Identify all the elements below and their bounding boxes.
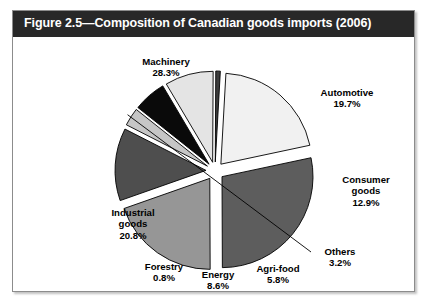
pie-slice-machinery[interactable] (222, 158, 313, 268)
pie-label-value: 0.8% (132, 272, 196, 283)
figure-title-bar: Figure 2.5—Composition of Canadian goods… (13, 11, 414, 37)
pie-label-name: goods (91, 218, 175, 229)
pie-label-forestry: Forestry0.8% (132, 261, 196, 284)
pie-label-value: 3.2% (309, 257, 371, 268)
pie-label-others: Others3.2% (309, 246, 371, 269)
pie-label-value: 19.7% (299, 98, 395, 109)
pie-label-value: 12.9% (321, 197, 411, 208)
figure-title: Figure 2.5—Composition of Canadian goods… (24, 16, 371, 30)
figure-frame: Figure 2.5—Composition of Canadian goods… (12, 10, 415, 292)
pie-label-name: Agri-food (241, 263, 315, 274)
pie-slice-industrial-goods[interactable] (221, 73, 310, 164)
pie-label-name: Automotive (299, 87, 395, 98)
pie-label-energy: Energy8.6% (187, 269, 249, 292)
pie-label-name: Consumer (321, 174, 411, 185)
pie-label-agri-food: Agri-food5.8% (241, 263, 315, 286)
pie-chart: Machinery28.3%Automotive19.7%Consumergoo… (13, 37, 416, 292)
pie-label-automotive: Automotive19.7% (299, 87, 395, 110)
pie-label-consumer-goods: Consumergoods12.9% (321, 174, 411, 208)
pie-label-name: goods (321, 185, 411, 196)
pie-label-name: Industrial (91, 207, 175, 218)
pie-label-value: 28.3% (120, 67, 212, 78)
pie-label-name: Forestry (132, 261, 196, 272)
pie-label-value: 5.8% (241, 274, 315, 285)
pie-label-value: 20.8% (91, 230, 175, 241)
pie-label-name: Others (309, 246, 371, 257)
pie-label-industrial-goods: Industrialgoods20.8% (91, 207, 175, 241)
pie-label-name: Energy (187, 269, 249, 280)
pie-slice-forestry[interactable] (215, 71, 220, 162)
pie-label-machinery: Machinery28.3% (120, 56, 212, 79)
pie-label-name: Machinery (120, 56, 212, 67)
pie-label-value: 8.6% (187, 280, 249, 291)
